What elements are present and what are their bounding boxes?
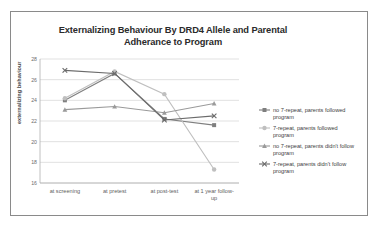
- gridlines-group: [40, 59, 239, 183]
- y-tick-label: 28: [31, 56, 37, 62]
- legend-label-0[interactable]: no 7-repeat, parents followed: [273, 107, 345, 113]
- y-axis-title: externalizing behaviour: [16, 61, 22, 124]
- series-1-point-3: [212, 167, 216, 171]
- legend-label-1[interactable]: 7-repeat, parents followed: [273, 125, 338, 131]
- y-tick-labels-group: 16182022242628: [31, 56, 37, 186]
- series-0-point-3: [212, 123, 216, 127]
- legend-label-1-cont[interactable]: program: [273, 132, 294, 138]
- chart-legend: no 7-repeat, parents followedprogram7-re…: [259, 107, 355, 174]
- data-series-group: [62, 68, 216, 172]
- legend-marker-1: [262, 126, 266, 130]
- x-tick-label: at post-test: [151, 188, 179, 194]
- x-tick-labels-group: at screeningat pretestat post-testat 1 y…: [40, 183, 239, 201]
- series-line-2: [65, 103, 214, 112]
- x-tick-label: at screening: [50, 188, 80, 194]
- series-1-point-2: [162, 92, 166, 96]
- y-tick-label: 24: [31, 97, 37, 103]
- y-axis-title-group: externalizing behaviour: [16, 61, 22, 124]
- legend-label-0-cont[interactable]: program: [273, 114, 294, 120]
- y-tick-label: 16: [31, 180, 37, 186]
- y-tick-label: 18: [31, 159, 37, 165]
- chart-plot-area: 16182022242628 at screeningat pretestat …: [11, 12, 369, 217]
- legend-label-3-cont[interactable]: program: [273, 168, 294, 174]
- series-line-3: [65, 70, 214, 120]
- x-tick-label: at 1 year follow-: [194, 188, 234, 194]
- y-tick-label: 22: [31, 118, 37, 124]
- chart-frame: Externalizing Behaviour By DRD4 Allele a…: [10, 11, 368, 216]
- legend-label-3[interactable]: 7-repeat, parents didn't follow: [273, 161, 347, 167]
- x-tick-label-cont: up: [211, 195, 217, 201]
- x-tick-label: at pretest: [103, 188, 127, 194]
- legend-marker-0: [263, 108, 267, 112]
- y-tick-label: 26: [31, 77, 37, 83]
- legend-label-2-cont[interactable]: program: [273, 150, 294, 156]
- series-line-1: [65, 71, 214, 169]
- y-tick-label: 20: [31, 139, 37, 145]
- series-1-point-0: [63, 96, 67, 100]
- legend-label-2[interactable]: no 7-repeat, parents didn't follow: [273, 143, 355, 149]
